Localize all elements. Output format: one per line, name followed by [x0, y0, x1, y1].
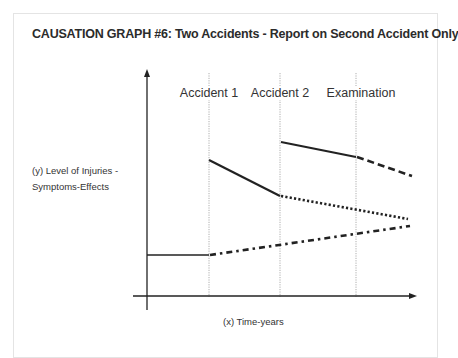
- series-dashed: [357, 157, 412, 176]
- series-accident-2: [281, 142, 356, 157]
- x-axis-arrow-icon: [409, 293, 417, 299]
- accident-2-label: Accident 2: [249, 86, 311, 100]
- series-dotted: [281, 196, 408, 219]
- series-accident-1: [209, 160, 280, 196]
- examination-label: Examination: [325, 86, 398, 100]
- y-axis-label-line-1: (y) Level of Injuries -: [32, 163, 118, 179]
- y-axis-label-line-2: Symptoms-Effects: [32, 179, 118, 195]
- accident-1-label: Accident 1: [178, 86, 240, 100]
- x-axis-label: (x) Time-years: [223, 316, 284, 327]
- y-axis-label: (y) Level of Injuries - Symptoms-Effects: [32, 163, 118, 195]
- series-dash-dot: [210, 226, 410, 255]
- y-axis-arrow-icon: [144, 69, 150, 77]
